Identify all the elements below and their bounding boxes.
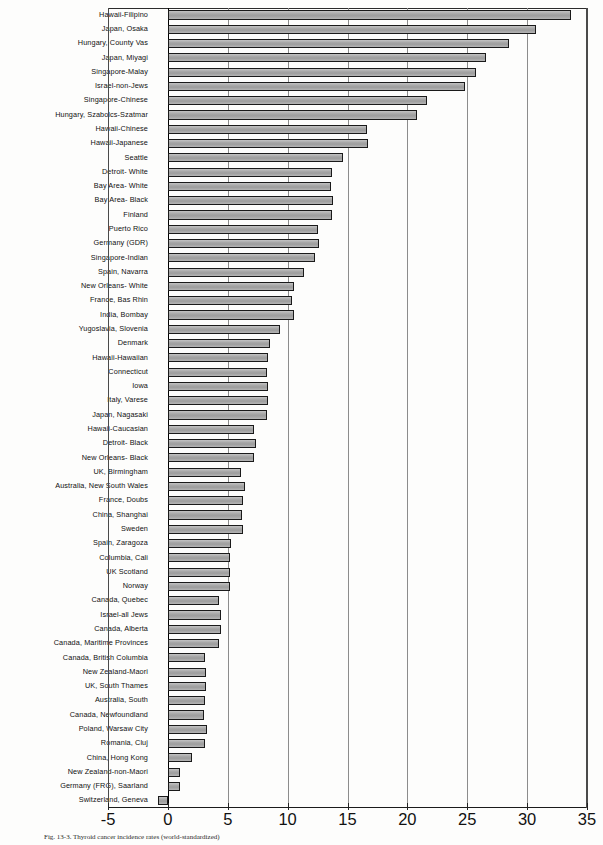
bar xyxy=(168,453,254,462)
bar-row xyxy=(108,737,587,753)
bar xyxy=(168,39,509,48)
bar xyxy=(168,439,257,448)
bar-row xyxy=(108,551,587,567)
bar-row xyxy=(108,522,587,538)
bar-row xyxy=(108,594,587,610)
bar xyxy=(168,668,206,677)
bar xyxy=(168,382,269,391)
bar xyxy=(168,139,368,148)
bar-row xyxy=(108,608,587,624)
figure-caption: Fig. 13-3. Thyroid cancer incidence rate… xyxy=(44,833,220,841)
bar xyxy=(168,125,367,134)
bar-row xyxy=(108,165,587,181)
bar-row xyxy=(108,437,587,453)
bar-row xyxy=(108,8,587,24)
bar xyxy=(168,496,243,505)
bar-row xyxy=(108,394,587,410)
x-tick-mark-0 xyxy=(168,803,169,810)
bar-row xyxy=(108,694,587,710)
bar xyxy=(168,10,572,19)
bar-row xyxy=(108,565,587,581)
bar xyxy=(168,639,219,648)
bar-row xyxy=(108,137,587,153)
x-tick-label-5: 5 xyxy=(223,810,232,829)
bar-row xyxy=(108,494,587,510)
bar xyxy=(168,782,180,791)
bar-row xyxy=(108,651,587,667)
bar xyxy=(168,310,294,319)
bar xyxy=(168,325,281,334)
x-tick-label-25: 25 xyxy=(458,810,476,829)
bar-row xyxy=(108,665,587,681)
bar-row xyxy=(108,422,587,438)
bar xyxy=(168,210,332,219)
x-tick-mark-15 xyxy=(348,803,349,810)
bar-row xyxy=(108,122,587,138)
bar-row xyxy=(108,51,587,67)
bar-row xyxy=(108,108,587,124)
bar-row xyxy=(108,637,587,653)
bar xyxy=(168,696,205,705)
x-tick-mark-20 xyxy=(407,803,408,810)
bar xyxy=(168,753,192,762)
bar-row xyxy=(108,508,587,524)
bar-row xyxy=(108,94,587,110)
bar xyxy=(168,82,465,91)
bar-rows xyxy=(108,8,587,808)
bar xyxy=(168,525,243,534)
x-tick-label--5: -5 xyxy=(101,810,116,829)
bar xyxy=(168,353,269,362)
x-tick-mark-5 xyxy=(228,803,229,810)
bar xyxy=(168,196,333,205)
x-tick-label-35: 35 xyxy=(578,810,596,829)
bar xyxy=(168,368,267,377)
bar-row xyxy=(108,451,587,467)
bar-row xyxy=(108,322,587,338)
gridline-35 xyxy=(587,8,588,808)
bar xyxy=(168,468,241,477)
x-tick-label-15: 15 xyxy=(338,810,356,829)
x-tick-label-10: 10 xyxy=(278,810,296,829)
bar xyxy=(168,182,331,191)
bar xyxy=(168,282,294,291)
bar xyxy=(168,68,476,77)
bar-row xyxy=(108,765,587,781)
x-tick-label-0: 0 xyxy=(163,810,172,829)
bar xyxy=(168,153,343,162)
bar xyxy=(168,653,205,662)
bar-row xyxy=(108,265,587,281)
bar-row xyxy=(108,151,587,167)
bar xyxy=(168,710,204,719)
bar xyxy=(168,410,267,419)
bar-row xyxy=(108,722,587,738)
bar xyxy=(168,268,305,277)
bar-row xyxy=(108,251,587,267)
bar-row xyxy=(108,22,587,38)
bar xyxy=(168,296,293,305)
bar-row xyxy=(108,194,587,210)
bar xyxy=(168,625,221,634)
bar-row xyxy=(108,708,587,724)
bar-row xyxy=(108,208,587,224)
bar xyxy=(168,610,221,619)
x-tick-label-30: 30 xyxy=(518,810,536,829)
bar xyxy=(168,568,230,577)
bar xyxy=(168,768,180,777)
bar xyxy=(168,553,230,562)
x-tick-mark-10 xyxy=(288,803,289,810)
bar-row xyxy=(108,779,587,795)
bar xyxy=(168,725,208,734)
bar-row xyxy=(108,579,587,595)
bar-row xyxy=(108,351,587,367)
bar xyxy=(168,739,205,748)
bar xyxy=(168,110,417,119)
bar-row xyxy=(108,179,587,195)
bar-row xyxy=(108,237,587,253)
x-tick-mark-30 xyxy=(527,803,528,810)
bar-row xyxy=(108,622,587,638)
bar-row xyxy=(108,279,587,295)
bar-row xyxy=(108,65,587,81)
bar xyxy=(168,225,318,234)
bar-row xyxy=(108,537,587,553)
bar-row xyxy=(108,379,587,395)
